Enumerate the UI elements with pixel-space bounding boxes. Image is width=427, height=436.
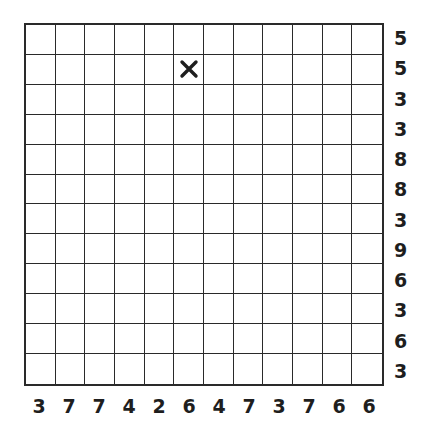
grid-cell-r11-c7[interactable] bbox=[204, 324, 234, 354]
grid-cell-r7-c6[interactable] bbox=[174, 204, 204, 234]
grid-cell-r6-c9[interactable] bbox=[263, 175, 293, 205]
grid-cell-r1-c10[interactable] bbox=[293, 25, 323, 55]
grid-cell-r11-c5[interactable] bbox=[145, 324, 175, 354]
grid-cell-r11-c1[interactable] bbox=[26, 324, 56, 354]
grid-cell-r1-c3[interactable] bbox=[85, 25, 115, 55]
grid-cell-r10-c12[interactable] bbox=[352, 294, 382, 324]
grid-cell-r9-c9[interactable] bbox=[263, 264, 293, 294]
grid-cell-r5-c6[interactable] bbox=[174, 145, 204, 175]
grid-cell-r5-c11[interactable] bbox=[323, 145, 353, 175]
grid-cell-r9-c6[interactable] bbox=[174, 264, 204, 294]
grid-cell-r6-c11[interactable] bbox=[323, 175, 353, 205]
grid-cell-r6-c4[interactable] bbox=[115, 175, 145, 205]
grid-cell-r3-c2[interactable] bbox=[56, 85, 86, 115]
grid-cell-r7-c7[interactable] bbox=[204, 204, 234, 234]
grid-cell-r3-c3[interactable] bbox=[85, 85, 115, 115]
grid-cell-r9-c7[interactable] bbox=[204, 264, 234, 294]
grid-cell-r8-c5[interactable] bbox=[145, 234, 175, 264]
grid-cell-r4-c10[interactable] bbox=[293, 115, 323, 145]
grid-cell-r7-c3[interactable] bbox=[85, 204, 115, 234]
grid-cell-r4-c8[interactable] bbox=[234, 115, 264, 145]
grid-cell-r12-c2[interactable] bbox=[56, 354, 86, 384]
grid-cell-r3-c4[interactable] bbox=[115, 85, 145, 115]
grid-cell-r4-c7[interactable] bbox=[204, 115, 234, 145]
grid-cell-r6-c7[interactable] bbox=[204, 175, 234, 205]
grid-cell-r3-c1[interactable] bbox=[26, 85, 56, 115]
grid-cell-r3-c7[interactable] bbox=[204, 85, 234, 115]
grid-cell-r8-c6[interactable] bbox=[174, 234, 204, 264]
grid-cell-r11-c2[interactable] bbox=[56, 324, 86, 354]
grid-cell-r8-c8[interactable] bbox=[234, 234, 264, 264]
grid-cell-r1-c11[interactable] bbox=[323, 25, 353, 55]
grid-cell-r5-c10[interactable] bbox=[293, 145, 323, 175]
grid-cell-r10-c9[interactable] bbox=[263, 294, 293, 324]
grid-cell-r4-c11[interactable] bbox=[323, 115, 353, 145]
grid-cell-r10-c6[interactable] bbox=[174, 294, 204, 324]
grid-cell-r11-c6[interactable] bbox=[174, 324, 204, 354]
grid-cell-r4-c4[interactable] bbox=[115, 115, 145, 145]
grid-cell-r7-c2[interactable] bbox=[56, 204, 86, 234]
grid-cell-r10-c2[interactable] bbox=[56, 294, 86, 324]
grid-cell-r5-c12[interactable] bbox=[352, 145, 382, 175]
grid-cell-r9-c4[interactable] bbox=[115, 264, 145, 294]
grid-cell-r5-c3[interactable] bbox=[85, 145, 115, 175]
grid-cell-r8-c7[interactable] bbox=[204, 234, 234, 264]
grid-cell-r3-c8[interactable] bbox=[234, 85, 264, 115]
grid-cell-r6-c1[interactable] bbox=[26, 175, 56, 205]
grid-cell-r11-c12[interactable] bbox=[352, 324, 382, 354]
grid-cell-r4-c5[interactable] bbox=[145, 115, 175, 145]
grid-cell-r6-c12[interactable] bbox=[352, 175, 382, 205]
grid-cell-r7-c5[interactable] bbox=[145, 204, 175, 234]
grid-cell-r4-c6[interactable] bbox=[174, 115, 204, 145]
grid-cell-r3-c11[interactable] bbox=[323, 85, 353, 115]
grid-cell-r2-c8[interactable] bbox=[234, 55, 264, 85]
grid-cell-r8-c3[interactable] bbox=[85, 234, 115, 264]
grid-cell-r2-c3[interactable] bbox=[85, 55, 115, 85]
grid-cell-r12-c8[interactable] bbox=[234, 354, 264, 384]
grid-cell-r11-c4[interactable] bbox=[115, 324, 145, 354]
grid-cell-r9-c2[interactable] bbox=[56, 264, 86, 294]
grid-cell-r1-c5[interactable] bbox=[145, 25, 175, 55]
grid-cell-r7-c10[interactable] bbox=[293, 204, 323, 234]
grid-cell-r12-c12[interactable] bbox=[352, 354, 382, 384]
grid-cell-r3-c10[interactable] bbox=[293, 85, 323, 115]
grid-cell-r2-c11[interactable] bbox=[323, 55, 353, 85]
grid-cell-r12-c6[interactable] bbox=[174, 354, 204, 384]
grid-cell-r9-c10[interactable] bbox=[293, 264, 323, 294]
grid-cell-r1-c12[interactable] bbox=[352, 25, 382, 55]
grid-cell-r4-c9[interactable] bbox=[263, 115, 293, 145]
grid-cell-r12-c4[interactable] bbox=[115, 354, 145, 384]
grid-cell-r1-c6[interactable] bbox=[174, 25, 204, 55]
grid-cell-r11-c11[interactable] bbox=[323, 324, 353, 354]
grid-cell-r1-c1[interactable] bbox=[26, 25, 56, 55]
grid-cell-r4-c2[interactable] bbox=[56, 115, 86, 145]
grid-cell-r4-c12[interactable] bbox=[352, 115, 382, 145]
grid-cell-r7-c1[interactable] bbox=[26, 204, 56, 234]
grid-cell-r11-c9[interactable] bbox=[263, 324, 293, 354]
grid-cell-r5-c4[interactable] bbox=[115, 145, 145, 175]
grid-cell-r8-c11[interactable] bbox=[323, 234, 353, 264]
grid-cell-r2-c7[interactable] bbox=[204, 55, 234, 85]
grid-cell-r11-c10[interactable] bbox=[293, 324, 323, 354]
grid-cell-r12-c5[interactable] bbox=[145, 354, 175, 384]
grid-cell-r6-c8[interactable] bbox=[234, 175, 264, 205]
grid-cell-r10-c5[interactable] bbox=[145, 294, 175, 324]
grid-cell-r1-c4[interactable] bbox=[115, 25, 145, 55]
grid-cell-r4-c1[interactable] bbox=[26, 115, 56, 145]
grid-cell-r10-c4[interactable] bbox=[115, 294, 145, 324]
grid-cell-r10-c7[interactable] bbox=[204, 294, 234, 324]
grid-cell-r6-c2[interactable] bbox=[56, 175, 86, 205]
grid-cell-r9-c8[interactable] bbox=[234, 264, 264, 294]
grid-cell-r1-c9[interactable] bbox=[263, 25, 293, 55]
grid-cell-r3-c9[interactable] bbox=[263, 85, 293, 115]
grid-cell-r11-c3[interactable] bbox=[85, 324, 115, 354]
grid-cell-r9-c5[interactable] bbox=[145, 264, 175, 294]
grid-cell-r3-c6[interactable] bbox=[174, 85, 204, 115]
grid-cell-r12-c1[interactable] bbox=[26, 354, 56, 384]
grid-cell-r5-c5[interactable] bbox=[145, 145, 175, 175]
grid-cell-r7-c12[interactable] bbox=[352, 204, 382, 234]
grid-cell-r7-c9[interactable] bbox=[263, 204, 293, 234]
grid-cell-r7-c11[interactable] bbox=[323, 204, 353, 234]
grid-cell-r1-c2[interactable] bbox=[56, 25, 86, 55]
grid-cell-r2-c2[interactable] bbox=[56, 55, 86, 85]
